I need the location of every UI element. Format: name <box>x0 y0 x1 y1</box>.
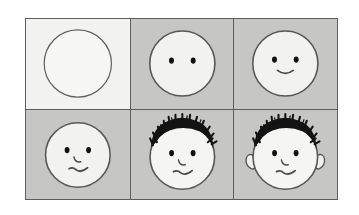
face-step-1-drawing <box>26 19 130 109</box>
head-outline <box>253 31 318 96</box>
right-eye <box>86 147 91 153</box>
left-eye <box>169 150 174 156</box>
left-eye <box>272 150 277 156</box>
left-eye <box>65 147 70 153</box>
face-step-3-drawing <box>234 19 337 109</box>
right-eye <box>294 56 299 62</box>
face-step-6-drawing <box>234 110 337 199</box>
head-outline <box>46 123 111 188</box>
right-eye <box>294 150 299 156</box>
face-step-4-drawing <box>26 110 130 199</box>
right-eye <box>190 57 195 63</box>
left-eye <box>272 56 277 62</box>
face-step-5-drawing <box>131 110 234 199</box>
panel-cell-3: Eyes plus smiling mouth <box>233 19 337 109</box>
panel-cell-6: Complete face with hair and ears <box>233 109 337 199</box>
head-outline <box>149 31 214 96</box>
panel-grid: Empty circle outline Circle with eyes Ey… <box>25 18 338 200</box>
illustration-figure: Empty circle outline Circle with eyes Ey… <box>0 0 359 215</box>
right-eye <box>190 150 195 156</box>
head-outline <box>44 30 111 97</box>
panel-cell-5: Face with curly black hair <box>130 109 234 199</box>
left-eye <box>169 57 174 63</box>
panel-cell-4: Eyes, nose and mouth <box>26 109 130 199</box>
panel-cell-2: Circle with eyes <box>130 19 234 109</box>
panel-cell-1: Empty circle outline <box>26 19 130 109</box>
face-step-2-drawing <box>131 19 234 109</box>
